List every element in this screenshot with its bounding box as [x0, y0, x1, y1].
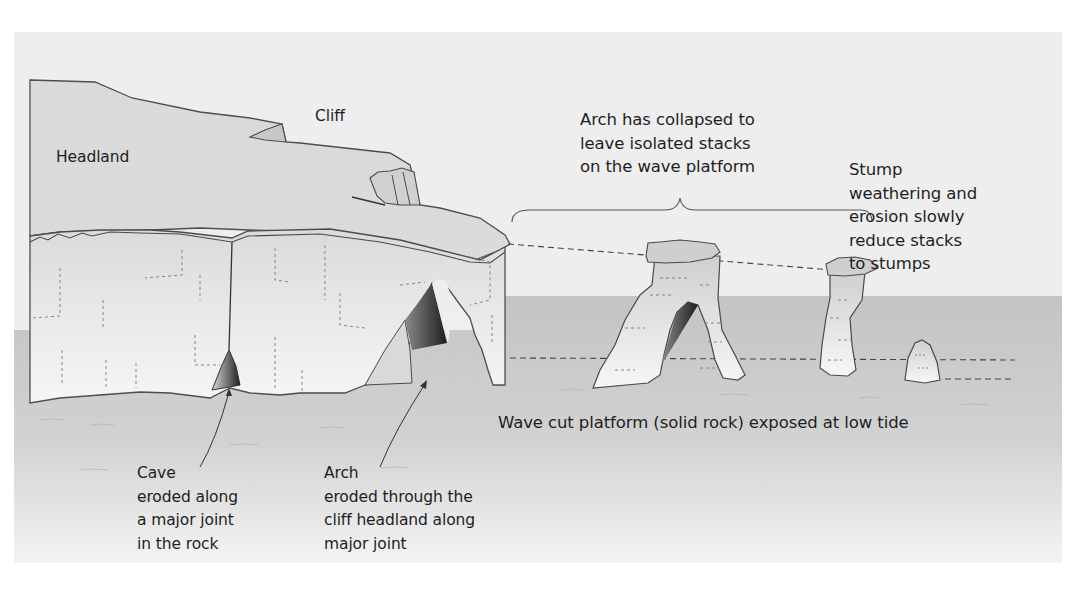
- platform-note: Wave cut platform (solid rock) exposed a…: [498, 411, 909, 435]
- coastal-erosion-diagram: Headland Cliff Arch has collapsed to lea…: [0, 0, 1092, 589]
- stacks-note: Arch has collapsed to leave isolated sta…: [580, 108, 755, 179]
- cave-note: Cave eroded along a major joint in the r…: [137, 462, 238, 556]
- arch-note: Arch eroded through the cliff headland a…: [324, 462, 475, 556]
- stump-note: Stump weathering and erosion slowly redu…: [849, 158, 977, 276]
- headland-label: Headland: [56, 146, 129, 170]
- cliff-label: Cliff: [315, 105, 345, 129]
